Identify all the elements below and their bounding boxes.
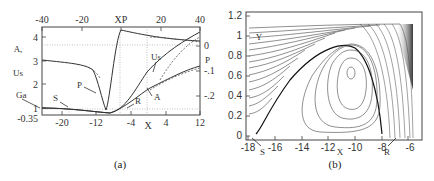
x-axis-label: X	[144, 120, 152, 131]
y-tick: 0.6	[228, 70, 242, 81]
top-x-tick: -20	[75, 14, 88, 25]
y-tick: 1	[236, 30, 242, 41]
annotation-us: Us	[151, 52, 161, 62]
x-tick: -4	[127, 117, 135, 128]
top-x-tick: -40	[35, 14, 48, 25]
figure: -40 -20 XP 20 40 -20 -12 -4 4 12 X 4 3 2…	[0, 0, 434, 181]
x-tick: -20	[55, 117, 68, 128]
x-tick: -10	[348, 142, 363, 153]
left-y-label-a: A,	[14, 44, 23, 54]
x-tick: -14	[295, 142, 310, 153]
left-y-tick: 4	[33, 32, 38, 43]
right-y-tick: -.1	[204, 65, 215, 76]
x-tick: -12	[89, 117, 102, 128]
top-x-tick: 20	[156, 14, 166, 25]
top-x-tick: 40	[195, 14, 205, 25]
caption-a: (a)	[114, 158, 127, 171]
left-y-tick: 2	[33, 79, 38, 90]
x-tick: -12	[321, 142, 336, 153]
panel-a: -40 -20 XP 20 40 -20 -12 -4 4 12 X 4 3 2…	[13, 14, 215, 171]
right-y-tick: 0	[204, 40, 209, 51]
annotation-s: S	[260, 147, 265, 157]
right-y-label: P	[205, 55, 210, 65]
y-tick: 0.8	[228, 50, 242, 61]
y-tick: 0.2	[228, 110, 242, 121]
annotation-a: A	[154, 92, 161, 102]
top-x-label: XP	[115, 14, 128, 25]
x-tick: 12	[195, 117, 205, 128]
y-tick: 0.4	[228, 90, 242, 101]
caption-b: (b)	[329, 158, 342, 171]
annotation-p: P	[77, 80, 82, 90]
annotation-r: R	[135, 96, 141, 106]
annotation-s: S	[53, 93, 58, 103]
x-tick: 4	[164, 117, 169, 128]
right-y-tick: -.2	[204, 90, 215, 101]
left-y-label-us: Us	[13, 68, 23, 78]
x-axis-label: X	[337, 147, 344, 157]
y-tick: 0	[236, 130, 242, 141]
annotation-ga: Ga	[16, 90, 27, 100]
x-tick: -16	[268, 142, 283, 153]
left-y-tick: -0.35	[17, 113, 38, 124]
left-y-tick: 3	[33, 56, 38, 67]
x-tick: -18	[241, 142, 256, 153]
y-axis-label: Y	[256, 32, 263, 42]
panel-b: 0 0.2 0.4 0.6 0.8 1 1.2 -18 -16 -14 -12 …	[228, 10, 422, 171]
y-tick: 1.2	[228, 10, 242, 21]
annotation-r: R	[384, 147, 390, 157]
x-tick: -6	[406, 142, 415, 153]
